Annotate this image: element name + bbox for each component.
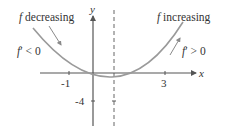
tick-label-x-3: 3 <box>161 77 167 89</box>
f-prime-positive-label: f′ > 0 <box>182 45 206 58</box>
tick-label-x-neg1: -1 <box>61 77 70 89</box>
decreasing-arrow-icon <box>49 26 61 45</box>
f-increasing-label: f increasing <box>157 11 211 24</box>
x-axis-label: x <box>198 67 204 79</box>
f-decreasing-label: f decreasing <box>19 11 74 24</box>
tick-label-y-neg4: -4 <box>75 95 85 107</box>
function-curve <box>33 22 183 77</box>
f-prime-negative-label: f′ < 0 <box>17 45 41 58</box>
function-graph: y x -1 3 -4 f decreasing f increasing f′… <box>0 0 227 134</box>
y-axis-label: y <box>89 3 95 15</box>
increasing-arrow-icon <box>170 38 180 55</box>
